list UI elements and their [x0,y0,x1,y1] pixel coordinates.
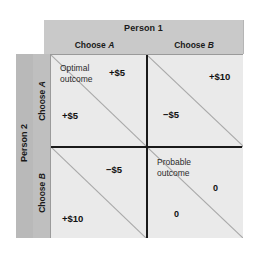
row-header-b-prefix: Choose [37,179,47,213]
column-header-b-prefix: Choose [174,40,208,50]
payoff-person2-a-a: +$5 [62,110,78,121]
column-header-b-choice: B [208,40,214,50]
column-header-choose-a: Choose A [44,40,145,50]
column-header-band: Choose A Choose B [44,37,244,54]
person2-header-band: Person 2 [16,54,33,238]
cell-diagonal-icon [147,55,243,146]
matrix-cell-b-a: −$5 +$10 [51,147,146,238]
payoff-person1-b-a: −$5 [106,164,122,175]
row-header-choose-a: Choose A [37,55,47,147]
cell-diagonal-icon [51,147,146,238]
payoff-person1-b-b: 0 [213,183,218,193]
payoff-person2-b-b: 0 [174,209,179,219]
payoff-person1-a-a: +$5 [109,67,125,78]
column-header-a-prefix: Choose [75,40,109,50]
row-header-a-choice: A [37,81,47,87]
payoff-matrix-grid: Optimal outcome +$5 +$5 +$10 −$5 −$5 +$1… [50,54,243,238]
person2-label: Person 2 [19,51,29,235]
column-header-a-choice: A [108,40,114,50]
person1-header-band: Person 1 [44,20,244,37]
payoff-person1-a-b: +$10 [209,71,230,82]
matrix-cell-b-b: Probable outcome 0 0 [147,147,243,238]
payoff-person2-a-b: −$5 [163,109,179,120]
row-header-choose-b: Choose B [37,147,47,239]
row-header-b-choice: B [37,173,47,179]
payoff-matrix-figure: Person 1 Choose A Choose B Person 2 Choo… [0,0,266,256]
matrix-cell-a-a: Optimal outcome +$5 +$5 [51,55,146,146]
column-header-choose-b: Choose B [145,40,243,50]
person1-label: Person 1 [44,23,243,33]
matrix-cell-a-b: +$10 −$5 [147,55,243,146]
row-header-a-prefix: Choose [37,87,47,121]
probable-outcome-annotation: Probable outcome [157,157,191,178]
row-header-band: Choose A Choose B [33,54,50,238]
horizontal-divider [51,146,242,148]
optimal-outcome-annotation: Optimal outcome [60,63,93,84]
payoff-person2-b-a: +$10 [62,213,83,224]
